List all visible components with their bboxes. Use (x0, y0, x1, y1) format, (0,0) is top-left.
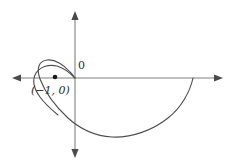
figure-root: 0 (−1, 0) (0, 0, 234, 167)
x-axis-right-arrow-icon (214, 74, 223, 81)
marked-point-label: (−1, 0) (31, 85, 70, 96)
x-axis (12, 74, 223, 81)
x-axis-left-arrow-icon (12, 74, 21, 81)
marked-point-dot (53, 75, 58, 80)
limacon-outer-arc (38, 60, 193, 137)
origin-label: 0 (78, 60, 85, 71)
y-axis (71, 11, 78, 158)
y-axis-bottom-arrow-icon (71, 149, 78, 158)
y-axis-top-arrow-icon (71, 11, 78, 20)
curve-group (34, 60, 193, 137)
